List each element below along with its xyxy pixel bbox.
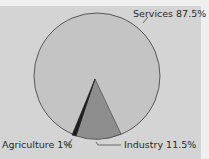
- leader-industry: [96, 142, 121, 145]
- label-services: Services 87.5%: [133, 8, 206, 19]
- pie-chart: [0, 0, 209, 159]
- label-agriculture: Agriculture 1%: [2, 139, 72, 150]
- label-industry: Industry 11.5%: [124, 139, 196, 150]
